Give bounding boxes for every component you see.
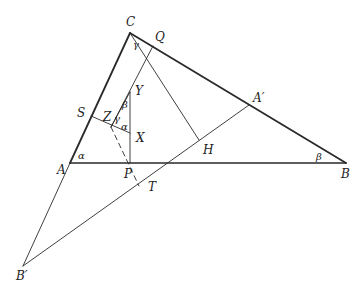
label-bprime: B′	[15, 269, 28, 283]
geometry-diagram: C Q Y S Z X A′ A H B P T B′ γ β γ α α β	[0, 0, 364, 292]
label-b: B	[340, 167, 350, 181]
side-ca	[70, 33, 130, 163]
label-t: T	[148, 180, 157, 194]
side-cb	[130, 33, 346, 163]
line-a-bprime	[23, 163, 70, 266]
label-x: X	[135, 131, 145, 145]
label-h: H	[202, 143, 214, 157]
angle-beta-b: β	[315, 151, 322, 162]
label-a: A	[56, 163, 66, 177]
label-s: S	[77, 106, 85, 120]
label-c: C	[126, 15, 135, 29]
label-q: Q	[155, 30, 165, 44]
angle-beta-y: β	[121, 99, 128, 110]
angle-alpha-x: α	[121, 121, 128, 132]
line-bprime-aprime	[23, 105, 249, 266]
angle-gamma-z: γ	[114, 113, 120, 124]
angle-gamma-c: γ	[133, 39, 139, 50]
label-y: Y	[135, 84, 144, 98]
label-z: Z	[102, 110, 112, 124]
label-p: P	[123, 167, 133, 181]
angle-alpha-a: α	[78, 150, 85, 161]
label-aprime: A′	[252, 91, 265, 105]
